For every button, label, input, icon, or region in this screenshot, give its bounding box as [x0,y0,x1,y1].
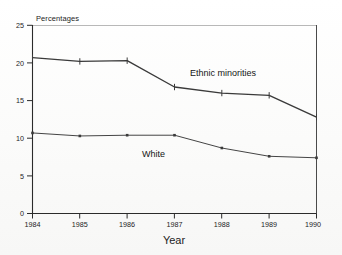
y-tick-label-5: 5 [20,172,24,181]
x-tick-label-1986: 1986 [119,220,135,229]
data-point [31,132,34,135]
series-label-ethnic-minorities: Ethnic minorities [190,68,257,78]
x-axis-title: Year [163,234,186,246]
data-point [315,156,318,159]
y-tick-label-20: 20 [16,59,24,68]
line-chart: 0 5 10 15 20 25 Percentages 1984 1985 19… [0,0,342,255]
series-layer [31,54,318,159]
y-tick-marks [27,25,33,213]
data-point [79,135,82,138]
x-tick-marks [33,214,317,219]
chart-page: 0 5 10 15 20 25 Percentages 1984 1985 19… [0,0,342,255]
x-tick-label-1988: 1988 [214,220,230,229]
y-tick-label-15: 15 [16,96,24,105]
data-point [268,155,271,158]
x-tick-label-1987: 1987 [166,220,182,229]
data-point [126,134,129,137]
y-tick-label-25: 25 [16,21,24,30]
x-tick-label-1990: 1990 [305,220,321,229]
y-tick-label-10: 10 [16,134,24,143]
x-tick-label-1985: 1985 [72,220,88,229]
y-axis-title: Percentages [36,14,79,23]
series-white [31,132,318,159]
x-tick-label-1984: 1984 [25,220,41,229]
x-tick-label-1989: 1989 [261,220,277,229]
y-tick-label-0: 0 [20,209,24,218]
data-point [221,147,224,150]
series-line [33,133,317,158]
data-point [173,134,176,137]
series-ethnic-minorities [33,54,317,120]
series-label-white: White [142,149,165,159]
